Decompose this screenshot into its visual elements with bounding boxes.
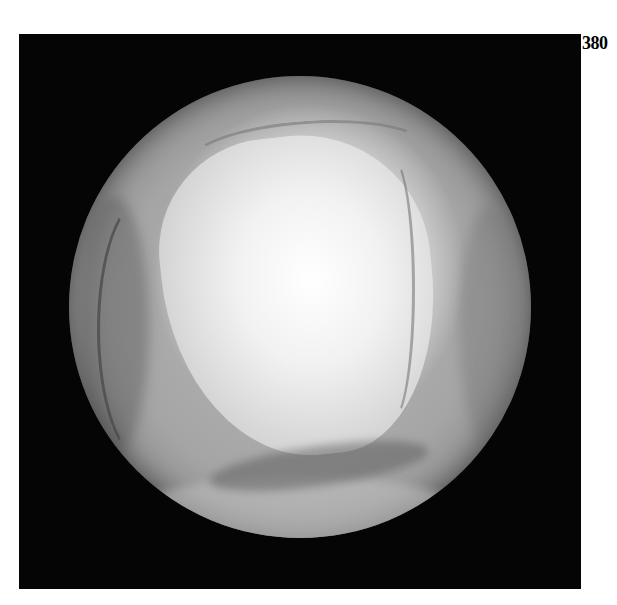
right-vessel [369, 156, 415, 422]
figure-number: 380 [582, 33, 608, 54]
endoscopic-view [69, 76, 531, 538]
left-vessel [97, 196, 193, 462]
right-tissue-shadow [459, 206, 519, 446]
image-frame [19, 34, 581, 589]
